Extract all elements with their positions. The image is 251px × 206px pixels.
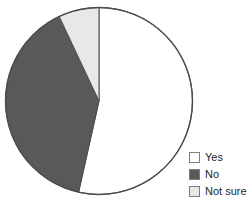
legend-label-no: No [205, 169, 219, 180]
legend-item-yes[interactable]: Yes [189, 150, 251, 165]
pie-svg [0, 0, 200, 206]
pie-plot-area [0, 0, 200, 206]
pie-slice-group [5, 8, 192, 195]
pie-chart-figure: Yes No Not sure [0, 0, 251, 206]
legend-swatch-no [189, 169, 200, 180]
legend-swatch-yes [189, 152, 200, 163]
chart-legend: Yes No Not sure [189, 150, 251, 199]
legend-swatch-not-sure [189, 186, 200, 197]
legend-item-no[interactable]: No [189, 167, 251, 182]
legend-label-not-sure: Not sure [205, 186, 247, 197]
legend-item-not-sure[interactable]: Not sure [189, 184, 251, 199]
legend-label-yes: Yes [205, 152, 223, 163]
